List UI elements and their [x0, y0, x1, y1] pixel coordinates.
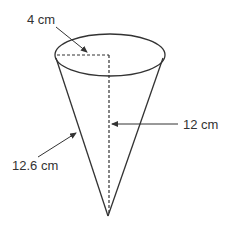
slant-height-label: 12.6 cm [12, 158, 58, 173]
radius-label: 4 cm [27, 12, 55, 27]
slant-height-arrow [38, 133, 76, 157]
cone-base-ellipse [55, 34, 165, 76]
height-label: 12 cm [183, 117, 218, 132]
radius-arrow [56, 27, 87, 52]
cone-diagram: 4 cm 12 cm 12.6 cm [0, 0, 231, 229]
cone-right-side [108, 58, 163, 216]
cone-body [55, 34, 165, 216]
cone-left-side [56, 58, 108, 216]
